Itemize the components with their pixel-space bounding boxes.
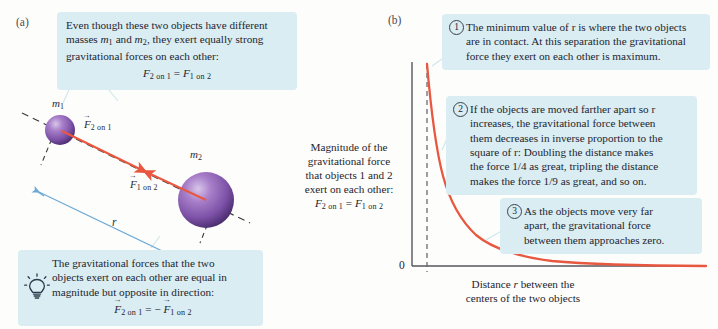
callout-inverse-square: 2 If the objects are moved farther apart…: [446, 96, 697, 195]
tip-eq-f-sub1: 2 on 1: [121, 308, 142, 317]
callout-equal-forces: Even though these two objects have diffe…: [57, 12, 297, 90]
xlabel-line-1-pre: Distance: [472, 278, 514, 290]
ylabel-eq-equals: =: [343, 197, 355, 209]
ylabel-eq-sub2: 1 on 2: [362, 203, 383, 212]
label-mass-1-sub: 1: [60, 102, 64, 111]
graph-x-axis-label: Distance r between the centers of the tw…: [408, 277, 638, 305]
callout-3-line-2: apart, the gravitational force: [524, 219, 651, 231]
tip-line-2: objects exert on each other are equal in: [52, 271, 227, 283]
ylabel-eq-sub1: 2 on 1: [322, 203, 343, 212]
label-mass-2: m2: [190, 148, 202, 162]
ylabel-equation: F2 on 1 = F1 on 2: [315, 197, 383, 209]
ylabel-line-4: exert on each other:: [305, 183, 394, 195]
eq-f-sub1: 2 on 1: [150, 72, 171, 81]
eq-f2-symbol: F: [183, 67, 190, 79]
tip-line-3: magnitude but opposite in direction:: [52, 286, 214, 298]
force-1-on-2-sub: 1 on 2: [137, 183, 158, 192]
eq-f-symbol: F: [143, 67, 150, 79]
tip-eq-f2-sub2: 1 on 2: [170, 308, 191, 317]
eq-equals: =: [171, 67, 183, 79]
callout-number-badge-1: 1: [449, 20, 464, 35]
callout-line-2-post: , they exert equally strong: [147, 33, 264, 45]
mass-1-symbol: m: [101, 33, 109, 45]
callout-newtons-third-law: The gravitational forces that the two ob…: [18, 250, 263, 326]
callout-line-2-mid: and: [113, 33, 135, 45]
callout-2-line-2: increases, the gravitational force betwe…: [470, 117, 655, 129]
xlabel-line-2: centers of the two objects: [466, 292, 580, 304]
eq-f2-sub2: 1 on 2: [190, 72, 211, 81]
sphere-mass-1: [45, 115, 75, 145]
ylabel-line-1: Magnitude of the: [310, 141, 387, 153]
callout-2-line-5: the force 1/4 as great, tripling the dis…: [470, 160, 658, 172]
graph-y-axis-label: Magnitude of the gravitational force tha…: [290, 140, 408, 213]
callout-force-approaches-zero: 3 As the objects move very far apart, th…: [500, 198, 702, 254]
label-distance-r: r: [112, 216, 116, 228]
callout-2-line-1: If the objects are moved farther apart s…: [470, 103, 655, 115]
callout-3-line-1: As the objects move very far: [524, 205, 653, 217]
ylabel-eq-f: F: [315, 197, 322, 209]
panel-a-label: (a): [16, 16, 29, 28]
callout-line-1: Even though these two objects have diffe…: [66, 19, 268, 31]
force-arrow-f2on1: [62, 131, 146, 172]
mass-2-symbol: m: [135, 33, 143, 45]
callout-number-badge-2: 2: [453, 102, 468, 117]
force-2-on-1-symbol: F: [84, 118, 91, 130]
force-1-on-2-symbol: F: [130, 178, 137, 190]
tip-eq-equals: = −: [142, 303, 163, 315]
callout-1-line-2: are in contact. At this separation the g…: [466, 35, 686, 47]
callout-line-2-pre: masses: [66, 33, 101, 45]
callout-equation: F2 on 1 = F1 on 2: [66, 66, 288, 83]
force-2-on-1-sub: 2 on 1: [91, 123, 112, 132]
callout-3-line-3: between them approaches zero.: [524, 234, 664, 246]
ylabel-line-2: gravitational force: [308, 155, 390, 167]
ylabel-line-3: that objects 1 and 2: [306, 169, 393, 181]
callout-2-line-3: them decreases in inverse proportion to …: [470, 132, 663, 144]
callout-minimum-separation: 1 The minimum value of r is where the tw…: [442, 14, 710, 70]
xlabel-line-1-post: between the: [518, 278, 575, 290]
label-mass-1-symbol: m: [52, 97, 60, 109]
label-force-2-on-1: F2 on 1: [84, 118, 112, 132]
panel-b-label: (b): [388, 14, 401, 26]
callout-1-line-1: The minimum value of r is where the two …: [466, 21, 686, 33]
callout-number-badge-3: 3: [507, 204, 522, 219]
graph-origin-label: 0: [399, 259, 405, 271]
tip-eq-f2-vector: F: [164, 302, 171, 316]
label-mass-1: m1: [52, 97, 64, 111]
label-mass-2-symbol: m: [190, 148, 198, 160]
callout-2-line-6: makes the force 1/9 as great, and so on.: [470, 175, 646, 187]
callout-2-line-4: square of r: Doubling the distance makes: [470, 146, 653, 158]
label-mass-2-sub: 2: [198, 153, 202, 162]
tip-line-1: The gravitational forces that the two: [52, 257, 214, 269]
label-force-1-on-2: F1 on 2: [130, 178, 158, 192]
tip-equation: F2 on 1 = − F1 on 2: [52, 302, 254, 319]
callout-1-line-3: force they exert on each other is maximu…: [466, 50, 660, 62]
physics-figure-gravitation: (a) (b) Even though these two objects ha…: [0, 0, 718, 329]
lightbulb-icon: [24, 273, 50, 303]
callout-line-3: gravitational forces on each other:: [66, 50, 219, 62]
tip-eq-f-vector: F: [114, 302, 121, 316]
ylabel-eq-f2: F: [355, 197, 362, 209]
